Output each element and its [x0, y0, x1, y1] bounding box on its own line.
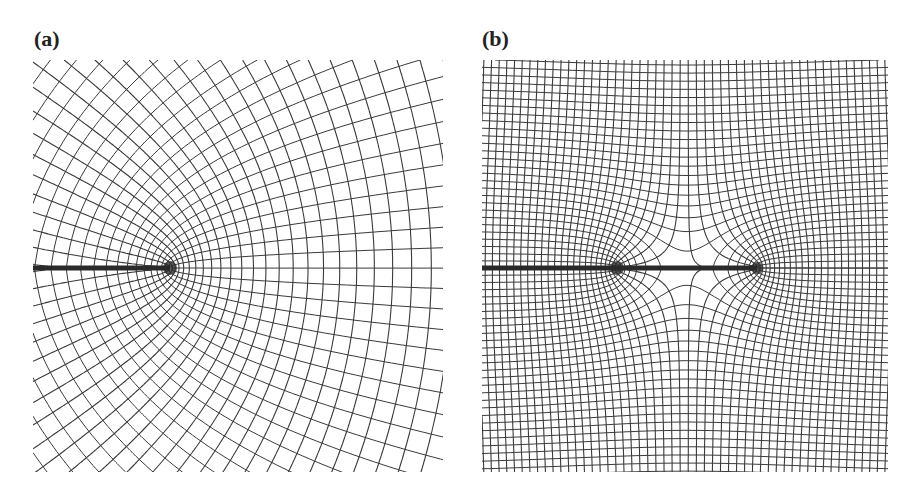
- field-line-dashed: [482, 98, 888, 106]
- field-line-dashed: [157, 270, 443, 372]
- field-line-dashed: [117, 60, 420, 267]
- field-line-dashed: [482, 447, 888, 454]
- field-line-solid: [286, 60, 339, 472]
- field-line-solid: [174, 60, 266, 472]
- field-line-dashed: [127, 76, 443, 267]
- field-line-dashed: [482, 330, 888, 355]
- field-line-dashed: [482, 430, 888, 438]
- panel-a-label: (a): [34, 26, 60, 52]
- field-line-dashed: [482, 361, 888, 378]
- field-line-dashed: [482, 90, 888, 97]
- field-line-dashed: [106, 270, 347, 472]
- field-line-dashed: [482, 158, 888, 175]
- field-line-dashed: [482, 370, 888, 385]
- panel-a-field-diagram: [33, 60, 443, 472]
- field-line-dashed: [117, 270, 412, 472]
- field-line-solid: [877, 60, 884, 472]
- field-line-solid: [839, 60, 849, 472]
- field-line-dashed: [67, 270, 218, 472]
- field-line-dashed: [495, 60, 879, 65]
- field-line-solid: [831, 60, 842, 472]
- field-line-dashed: [482, 67, 888, 73]
- field-line-dashed: [127, 270, 443, 460]
- field-line-dashed: [482, 254, 888, 267]
- field-line-dashed: [51, 270, 185, 472]
- field-line-solid: [885, 60, 888, 472]
- singular-point: [163, 261, 177, 275]
- field-line-dashed: [151, 143, 443, 267]
- field-line-dashed: [33, 453, 49, 472]
- field-line-solid: [330, 60, 374, 472]
- field-line-dashed: [157, 165, 443, 267]
- field-line-dashed: [482, 151, 888, 166]
- field-line-dashed: [562, 471, 813, 472]
- field-line-dashed: [151, 270, 443, 393]
- field-line-dashed: [482, 270, 888, 283]
- field-line-dashed: [35, 60, 158, 267]
- field-line-solid: [198, 60, 280, 472]
- field-line-dashed: [482, 455, 888, 461]
- field-line-dashed: [482, 83, 888, 90]
- panel-b-label: (b): [482, 26, 509, 52]
- field-line-dashed: [482, 463, 888, 469]
- field-line-dashed: [482, 75, 888, 81]
- field-line-solid: [760, 60, 785, 472]
- field-line-solid: [308, 60, 357, 472]
- field-line-dashed: [482, 270, 888, 276]
- field-line-solid: [397, 60, 431, 472]
- field-line-dashed: [33, 60, 103, 159]
- field-line-dashed: [482, 181, 888, 206]
- singular-point-left: [610, 261, 624, 275]
- field-line-dashed: [165, 270, 443, 330]
- panel-b-field-diagram: [482, 60, 888, 472]
- singular-point-right: [751, 262, 763, 274]
- field-line-dashed: [482, 439, 888, 446]
